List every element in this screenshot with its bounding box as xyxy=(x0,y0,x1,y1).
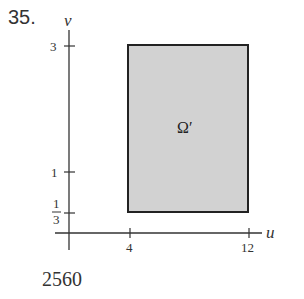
v-tick-label-1: 1 xyxy=(51,165,58,180)
u-tick-label-12: 12 xyxy=(241,240,254,255)
region-label: Ω′ xyxy=(177,119,192,136)
v-tick-label-3: 3 xyxy=(50,39,57,54)
uv-plane-diagram: v u 3 1 1 3 4 12 Ω′ xyxy=(0,0,304,299)
v-axis-label: v xyxy=(64,11,72,30)
v-tick-label-frac-num: 1 xyxy=(53,196,60,211)
page-number: 2560 xyxy=(42,268,82,291)
u-axis-label: u xyxy=(266,223,275,242)
u-tick-label-4: 4 xyxy=(126,240,133,255)
v-tick-label-frac-den: 3 xyxy=(53,212,60,227)
